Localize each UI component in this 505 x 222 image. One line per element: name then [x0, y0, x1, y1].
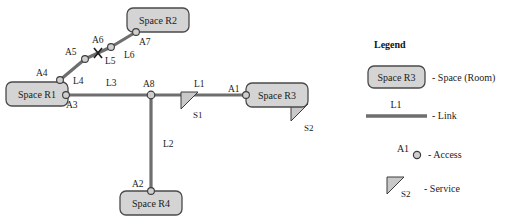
topology-svg: Space R2 Space R1 Space R3 Space R4 — [0, 0, 505, 222]
service-triangle-S1 — [181, 92, 198, 109]
access-label-A5: A5 — [65, 47, 77, 57]
access-label-A7: A7 — [139, 37, 151, 47]
legend-room-description: - Space (Room) — [432, 72, 495, 84]
legend-service-description: - Service — [424, 183, 460, 194]
access-label-A4: A4 — [36, 68, 48, 78]
link-label-L3: L3 — [106, 78, 117, 88]
access-node-A4[interactable] — [57, 77, 64, 84]
room-label-R1: Space R1 — [18, 89, 56, 100]
link-label-L4: L4 — [73, 76, 84, 86]
access-node-A1[interactable] — [243, 92, 250, 99]
access-node-A2[interactable] — [148, 188, 155, 195]
link-label-L6: L6 — [124, 50, 135, 60]
access-label-A3: A3 — [66, 100, 78, 110]
access-node-A7[interactable] — [133, 29, 140, 36]
access-nodes — [57, 29, 250, 195]
legend-link-description: - Link — [432, 110, 457, 121]
link-label-L5: L5 — [105, 56, 116, 66]
legend-access-description: - Access — [428, 149, 462, 160]
access-node-A6[interactable] — [108, 44, 115, 51]
legend-access-swatch — [413, 151, 420, 158]
access-label-A2: A2 — [132, 179, 144, 189]
access-labels: A1 A2 A3 A4 A5 A6 A7 A8 — [36, 35, 240, 189]
legend-panel: Legend Space R3 - Space (Room) L1 - Link… — [366, 39, 495, 199]
legend-title: Legend — [374, 39, 406, 50]
legend-link-sample-label: L1 — [390, 99, 401, 110]
link-edge-L6 — [111, 32, 136, 47]
legend-service-sample-label: S2 — [401, 189, 411, 199]
access-node-A3[interactable] — [63, 92, 70, 99]
access-node-A8[interactable] — [147, 91, 155, 99]
room-label-R4: Space R4 — [132, 198, 170, 209]
access-node-A5[interactable] — [82, 56, 89, 63]
access-label-A1: A1 — [228, 84, 240, 94]
room-boxes: Space R2 Space R1 Space R3 Space R4 — [6, 8, 308, 215]
service-label-S2: S2 — [304, 123, 314, 133]
room-label-R2: Space R2 — [139, 15, 177, 26]
diagram-canvas: Space R2 Space R1 Space R3 Space R4 — [0, 0, 505, 222]
link-edges — [60, 32, 246, 191]
link-label-L2: L2 — [163, 139, 174, 149]
legend-room-sample-label: Space R3 — [377, 72, 415, 83]
room-label-R3: Space R3 — [258, 90, 296, 101]
access-label-A8: A8 — [143, 79, 155, 89]
legend-access-sample-label: A1 — [397, 143, 409, 154]
service-label-S1: S1 — [193, 110, 203, 120]
access-label-A6: A6 — [92, 35, 104, 45]
link-label-L1: L1 — [194, 79, 205, 89]
